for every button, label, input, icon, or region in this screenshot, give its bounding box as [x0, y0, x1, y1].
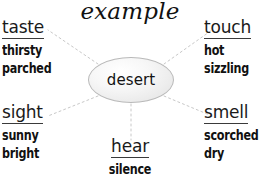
sense-word: bright: [2, 144, 39, 164]
sense-group-hear: hear silence: [95, 137, 165, 179]
sense-words-hear: silence: [95, 161, 165, 179]
sensory-details-web: example desert taste thirsty parched tou…: [0, 0, 260, 184]
sense-group-taste: taste thirsty parched: [2, 18, 59, 78]
sense-word: sizzling: [204, 59, 249, 79]
sense-words-sight: sunny bright: [2, 127, 45, 163]
sense-title-taste: taste: [2, 18, 44, 39]
sense-words-taste: thirsty parched: [2, 42, 59, 78]
sense-group-touch: touch hot sizzling: [204, 18, 256, 78]
center-node-label: desert: [89, 58, 173, 102]
center-node-ellipse: desert: [88, 57, 174, 103]
sense-word: dry: [204, 144, 259, 164]
sense-group-sight: sight sunny bright: [2, 103, 45, 163]
sense-title-smell: smell: [204, 103, 248, 124]
sense-group-smell: smell scorched dry: [204, 103, 260, 163]
sense-word: parched: [2, 59, 51, 79]
sense-title-sight: sight: [2, 103, 43, 124]
sense-words-touch: hot sizzling: [204, 42, 256, 78]
sense-title-hear: hear: [111, 137, 149, 158]
sense-title-touch: touch: [204, 18, 251, 39]
sense-word: silence: [100, 160, 160, 180]
sense-words-smell: scorched dry: [204, 127, 260, 163]
